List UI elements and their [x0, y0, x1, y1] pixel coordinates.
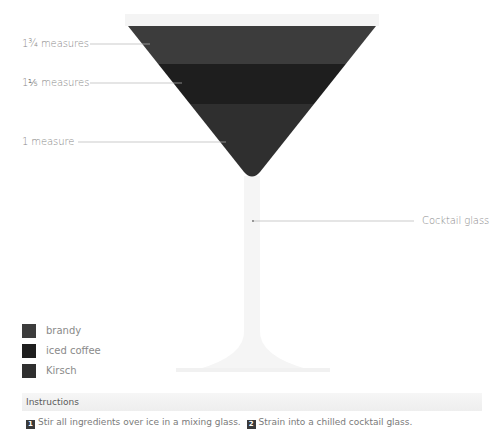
- callout-layer3-measure: 1 measure: [22, 136, 74, 148]
- glass-base: [196, 330, 310, 370]
- layer-brandy: [120, 26, 384, 64]
- legend-label: iced coffee: [46, 345, 101, 357]
- step-text: Stir all ingredients over ice in a mixin…: [38, 417, 241, 427]
- ingredient-legend: brandy iced coffee Kirsch: [22, 321, 101, 381]
- layer-iced-coffee: [120, 64, 384, 104]
- layer-kirsch: [120, 104, 384, 184]
- swatch-kirsch-icon: [22, 364, 36, 378]
- swatch-iced-coffee-icon: [22, 344, 36, 358]
- callout-glass-type: Cocktail glass: [422, 215, 489, 227]
- legend-label: Kirsch: [46, 365, 77, 377]
- legend-label: brandy: [46, 325, 81, 337]
- step-text: Strain into a chilled cocktail glass.: [259, 417, 413, 427]
- glass-rim: [125, 14, 379, 26]
- glass-foot: [176, 368, 330, 372]
- instructions-steps: 1Stir all ingredients over ice in a mixi…: [26, 416, 412, 429]
- step-number-icon: 1: [26, 420, 35, 429]
- callout-dot-glass: [252, 220, 254, 222]
- swatch-brandy-icon: [22, 324, 36, 338]
- glass-stem: [244, 176, 260, 336]
- legend-item-kirsch: Kirsch: [22, 361, 101, 381]
- instructions-title: Instructions: [26, 396, 79, 408]
- instructions-header-bar: [22, 393, 482, 411]
- step-number-icon: 2: [247, 420, 256, 429]
- callout-layer1-measure: 1¾ measures: [22, 38, 89, 50]
- legend-item-iced-coffee: iced coffee: [22, 341, 101, 361]
- callout-layer2-measure: 1⅕ measures: [22, 77, 89, 89]
- legend-item-brandy: brandy: [22, 321, 101, 341]
